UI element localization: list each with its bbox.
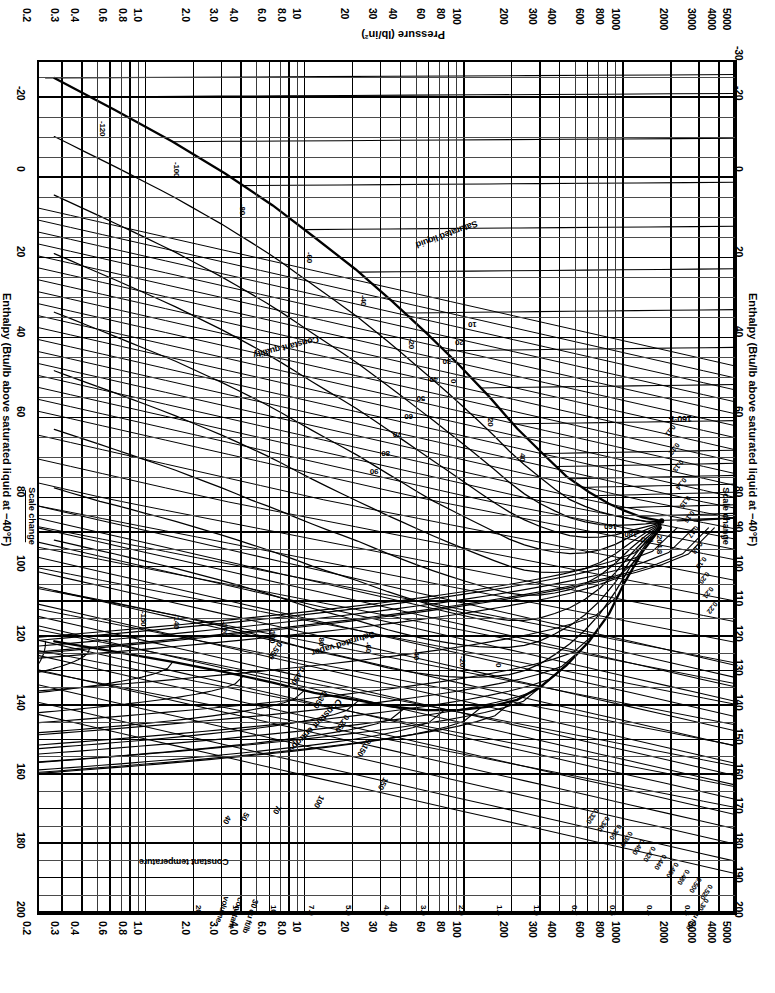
- enthalpy-tick-label: 140: [15, 694, 27, 711]
- cold-isotherm-label--150: -150: [139, 611, 148, 626]
- enthalpy-gridline-minor: [39, 157, 735, 158]
- scale-change-label-left: Scale change: [721, 488, 731, 546]
- isotherm-liquid--100: [243, 182, 735, 185]
- pressure-tick-label: 0.4: [69, 8, 81, 22]
- enthalpy-tick-label: -20: [733, 86, 745, 100]
- pressure-tick-label: 2.0: [180, 921, 192, 935]
- enthalpy-tick-label: 80: [733, 486, 745, 497]
- pressure-tick-label: 20: [339, 8, 351, 19]
- enthalpy-tick-label: 20: [15, 246, 27, 257]
- sat-temp-label--20: -20: [407, 338, 416, 349]
- pressure-tick-label: 2.0: [180, 8, 192, 22]
- enthalpy-gridline: [39, 773, 735, 775]
- pressure-gridline-minor: [439, 62, 440, 913]
- pressure-tick-label: 30: [367, 921, 379, 932]
- pressure-gridline-minor: [456, 62, 457, 913]
- isentrope-0.17: [39, 280, 735, 438]
- enthalpy-gridline-minor: [39, 357, 735, 358]
- scale-change-rule-left: [719, 491, 720, 543]
- pressure-gridline: [448, 62, 450, 913]
- pressure-gridline: [288, 62, 290, 913]
- enthalpy-tick-label: 150: [733, 728, 745, 745]
- enthalpy-gridline: [39, 96, 735, 98]
- pressure-tick-label: 3000: [686, 8, 698, 30]
- enthalpy-tick-label: 100: [15, 555, 27, 572]
- pressure-tick-label: 8.0: [276, 921, 288, 935]
- pressure-tick-label: 4000: [706, 921, 718, 943]
- enthalpy-gridline-minor: [39, 477, 735, 478]
- pressure-tick-label: 60: [415, 8, 427, 19]
- enthalpy-gridline-minor: [39, 653, 735, 654]
- pressure-tick-label: 800: [594, 8, 606, 25]
- cold-isotherm-label--20: -20: [458, 656, 467, 667]
- pressure-tick-label: 100: [451, 921, 463, 938]
- pressure-gridline-minor: [280, 62, 281, 913]
- enthalpy-gridline-minor: [39, 397, 735, 398]
- isotherm-liquid-20: [513, 421, 735, 424]
- plot-area: [37, 60, 737, 915]
- pressure-gridline: [463, 62, 465, 913]
- pressure-gridline: [61, 62, 63, 913]
- enthalpy-gridline: [39, 842, 735, 844]
- enthalpy-tick-label: 200: [15, 901, 27, 918]
- enthalpy-gridline: [39, 497, 735, 499]
- enthalpy-tick-label: -30: [733, 46, 745, 60]
- sat-temp-label--60: -60: [305, 252, 314, 263]
- pressure-tick-label: 3.0: [208, 8, 220, 22]
- pressure-tick-label: 5000: [721, 8, 733, 30]
- isentrope-0.23: [39, 352, 735, 508]
- cold-isotherm-label--140: -140: [172, 614, 181, 629]
- enthalpy-gridline-minor: [39, 549, 735, 550]
- pressure-tick-label: 40: [387, 921, 399, 932]
- enthalpy-gridline: [39, 877, 735, 879]
- volume-label-13: 20: [194, 905, 203, 914]
- enthalpy-gridline-minor: [39, 277, 735, 278]
- dome-temp-label-180: 180: [624, 530, 637, 539]
- enthalpy-tick-label: 60: [15, 406, 27, 417]
- pressure-gridline: [221, 62, 223, 913]
- pressure-tick-label: 1.0: [132, 8, 144, 22]
- pressure-gridline: [269, 62, 271, 913]
- pressure-gridline: [607, 62, 609, 913]
- isotherm-liquid--20: [444, 347, 735, 350]
- sat-temp-label--100: -100: [172, 162, 181, 177]
- pressure-tick-label: 20: [339, 921, 351, 932]
- pressure-tick-label: 300: [527, 8, 539, 25]
- pressure-gridline: [587, 62, 589, 913]
- pressure-gridline: [670, 62, 672, 913]
- pressure-tick-label: 0.2: [21, 921, 33, 935]
- pressure-tick-label: 8.0: [276, 8, 288, 22]
- pressure-tick-label: 0.6: [97, 921, 109, 935]
- pressure-tick-label: 400: [546, 8, 558, 25]
- pressure-tick-label: 1000: [610, 921, 622, 943]
- pressure-tick-label: 4.0: [228, 8, 240, 22]
- enthalpy-gridline: [39, 808, 735, 810]
- volume-label-12: 14: [231, 905, 240, 914]
- enthalpy-tick-label: 160: [15, 763, 27, 780]
- enthalpy-gridline-minor: [39, 722, 735, 723]
- pressure-gridline: [241, 62, 243, 913]
- enthalpy-gridline-minor: [39, 217, 735, 218]
- enthalpy-gridline-minor: [39, 826, 735, 827]
- enthalpy-gridline: [39, 337, 735, 339]
- enthalpy-tick-label: 190: [733, 866, 745, 883]
- isentrope-0.12: [39, 220, 735, 378]
- enthalpy-gridline: [39, 417, 735, 419]
- isochore-4: [39, 617, 735, 776]
- pressure-tick-label: 600: [574, 8, 586, 25]
- enthalpy-gridline-minor: [39, 515, 735, 516]
- volume-label-3: 0.7: [570, 905, 579, 916]
- scale-change-rule-right: [25, 491, 26, 543]
- pressure-tick-label: 200: [499, 921, 511, 938]
- enthalpy-gridline: [39, 704, 735, 706]
- pressure-gridline-minor: [97, 62, 98, 913]
- enthalpy-axis-title-right: Enthalpy (Btu/lb above saturated liquid …: [1, 293, 13, 546]
- cold-isotherm-label-0: 0: [494, 663, 503, 667]
- volume-label-0: 0.3: [683, 905, 692, 916]
- enthalpy-tick-label: 40: [15, 326, 27, 337]
- quality-label-50: 50: [417, 394, 426, 403]
- enthalpy-gridline-minor: [39, 584, 735, 585]
- pressure-tick-label: 6.0: [256, 921, 268, 935]
- enthalpy-gridline: [39, 177, 735, 179]
- pressure-tick-label: 800: [594, 921, 606, 938]
